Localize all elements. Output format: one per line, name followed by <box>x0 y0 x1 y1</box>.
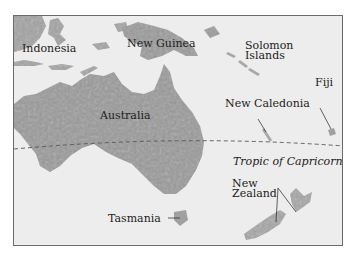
label-new-guinea: New Guinea <box>127 38 196 49</box>
new-caledonia-landmass <box>262 128 272 142</box>
australia-landmass <box>14 64 204 194</box>
label-new-caledonia: New Caledonia <box>225 98 310 109</box>
label-australia: Australia <box>100 110 151 121</box>
label-indonesia: Indonesia <box>22 43 76 54</box>
label-solomon-line2: Islands <box>245 50 285 61</box>
map-frame: Indonesia New Guinea Solomon Islands Fij… <box>13 15 343 246</box>
new-caledonia-leader-line <box>258 119 266 132</box>
fiji-leader-line <box>320 108 331 129</box>
label-new-zealand-line2: Zealand <box>232 188 277 199</box>
label-tasmania: Tasmania <box>108 213 161 224</box>
label-fiji: Fiji <box>315 77 333 88</box>
fiji-landmass <box>328 128 336 136</box>
label-tropic-of-capricorn: Tropic of Capricorn <box>233 156 343 167</box>
